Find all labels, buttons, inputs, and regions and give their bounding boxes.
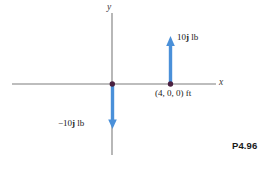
force-couple-figure: y x 10j lb −10j lb (4, 0, 0) ft P4.96 bbox=[0, 0, 277, 172]
force-down-label: −10j lb bbox=[58, 119, 84, 128]
force-up-vector bbox=[166, 36, 175, 84]
x-axis-label: x bbox=[219, 78, 223, 88]
y-axis-label: y bbox=[107, 3, 111, 13]
point-a-marker bbox=[168, 81, 173, 86]
force-down-label-text: −10j lb bbox=[58, 118, 84, 128]
origin-point-marker bbox=[110, 81, 115, 86]
figure-reference-label: P4.96 bbox=[232, 140, 257, 151]
force-down-vector bbox=[108, 84, 117, 129]
point-a-coordinate-label: (4, 0, 0) ft bbox=[155, 89, 191, 98]
force-up-label-text: 10j lb bbox=[177, 32, 198, 42]
force-up-label: 10j lb bbox=[177, 33, 198, 42]
